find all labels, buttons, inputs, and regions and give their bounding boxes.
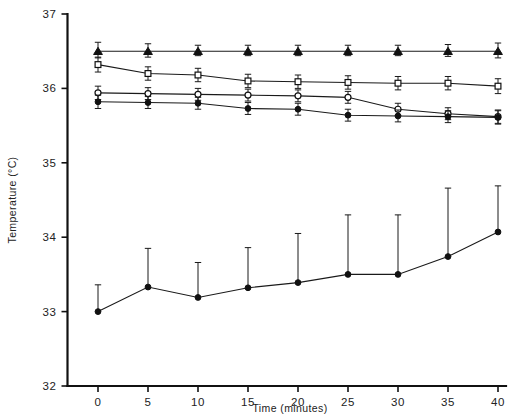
y-axis-title: Temperature (°C) xyxy=(6,156,18,243)
x-tick-label-40: 40 xyxy=(491,396,505,408)
series-layer xyxy=(94,42,503,314)
chart-figure: 323334353637 0510152025303540 Temperatur… xyxy=(0,0,514,419)
data-point-marker-open-circle xyxy=(345,94,351,100)
data-point-marker-open-square xyxy=(345,80,351,86)
data-point-marker-filled-circle xyxy=(95,309,101,315)
temperature-vs-time-line-chart: 323334353637 0510152025303540 Temperatur… xyxy=(0,0,514,419)
data-point-marker-filled-circle xyxy=(395,113,401,119)
data-point-marker-open-square xyxy=(145,71,151,77)
y-tick-label-36: 36 xyxy=(43,82,57,94)
x-tick-label-25: 25 xyxy=(341,396,355,408)
data-point-marker-filled-circle xyxy=(495,229,501,235)
x-tick-label-5: 5 xyxy=(145,396,152,408)
axis-group xyxy=(68,14,507,386)
series-open-square-series xyxy=(95,57,501,93)
data-point-marker-filled-circle xyxy=(345,112,351,118)
x-tick-label-10: 10 xyxy=(191,396,205,408)
y-tick-label-33: 33 xyxy=(43,306,57,318)
x-axis-title: Time (minutes) xyxy=(252,402,327,414)
data-point-marker-open-circle xyxy=(145,91,151,97)
data-point-marker-filled-circle xyxy=(195,295,201,301)
data-point-marker-filled-circle xyxy=(295,280,301,286)
data-point-marker-filled-circle xyxy=(95,99,101,105)
data-point-marker-open-square xyxy=(195,72,201,78)
data-point-marker-open-square xyxy=(295,79,301,85)
data-point-marker-filled-circle xyxy=(295,106,301,112)
y-tick-label-32: 32 xyxy=(43,380,57,392)
data-point-marker-open-circle xyxy=(245,92,251,98)
data-point-marker-filled-circle xyxy=(345,272,351,278)
data-point-marker-open-square xyxy=(395,80,401,86)
data-point-marker-filled-circle xyxy=(245,285,251,291)
data-point-marker-open-square xyxy=(495,83,501,89)
data-point-marker-filled-circle xyxy=(395,272,401,278)
series-filled-triangle-series xyxy=(94,42,503,58)
y-tick-group: 323334353637 xyxy=(43,8,68,392)
data-point-marker-open-square xyxy=(445,80,451,86)
data-point-marker-filled-circle xyxy=(195,100,201,106)
data-point-marker-filled-circle xyxy=(445,254,451,260)
data-point-marker-filled-circle xyxy=(145,100,151,106)
data-point-marker-filled-circle xyxy=(145,284,151,290)
data-point-marker-open-circle xyxy=(195,91,201,97)
x-tick-label-35: 35 xyxy=(441,396,455,408)
data-point-marker-open-circle xyxy=(295,93,301,99)
series-filled-circle-lower-series xyxy=(95,186,501,315)
data-point-marker-open-square xyxy=(95,62,101,68)
y-tick-label-37: 37 xyxy=(43,8,57,20)
data-point-marker-open-square xyxy=(245,78,251,84)
data-point-marker-filled-circle xyxy=(445,114,451,120)
x-tick-label-30: 30 xyxy=(391,396,405,408)
data-point-marker-filled-circle xyxy=(495,115,501,121)
data-point-marker-filled-circle xyxy=(245,106,251,112)
x-tick-label-0: 0 xyxy=(95,396,102,408)
y-tick-label-35: 35 xyxy=(43,157,57,169)
y-tick-label-34: 34 xyxy=(43,231,57,243)
